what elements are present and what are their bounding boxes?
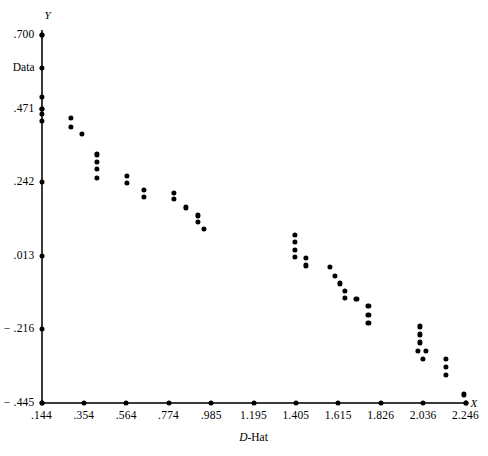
data-point: [292, 239, 297, 244]
data-point: [68, 116, 73, 121]
x-tick-label: 1.615: [325, 410, 352, 422]
y-tick-mark: [39, 327, 44, 332]
data-point: [292, 247, 297, 252]
data-point: [124, 181, 129, 186]
y-tick-label: .013: [14, 250, 35, 262]
x-tick-mark: [293, 400, 298, 405]
data-point: [343, 288, 348, 293]
x-tick-label: .354: [73, 410, 94, 422]
data-point: [333, 273, 338, 278]
data-point: [124, 173, 129, 178]
x-tick-mark: [209, 400, 214, 405]
data-point: [39, 118, 44, 123]
y-tick-label: .471: [14, 103, 35, 115]
y-tick-mark: [39, 180, 44, 185]
x-tick-label: 1.826: [367, 410, 394, 422]
series-label-data: Data: [13, 62, 35, 74]
x-tick-label: .564: [116, 410, 137, 422]
data-point: [183, 205, 188, 210]
data-point: [171, 191, 176, 196]
x-tick-mark: [81, 400, 86, 405]
data-point: [39, 32, 44, 37]
data-point: [95, 159, 100, 164]
data-point: [303, 263, 308, 268]
x-axis-symbol-label: X: [471, 398, 478, 409]
data-point: [366, 304, 371, 309]
x-tick-label: .774: [158, 410, 179, 422]
scatter-plot: Y X Data D-Hat .700.471.242.013− .216− .…: [0, 0, 488, 456]
y-tick-label: .700: [14, 29, 35, 41]
data-point: [338, 281, 343, 286]
data-point: [39, 94, 44, 99]
data-point: [141, 194, 146, 199]
data-point: [39, 111, 44, 116]
x-tick-label: 2.036: [410, 410, 437, 422]
data-point: [463, 400, 468, 405]
data-point: [171, 196, 176, 201]
data-point: [343, 296, 348, 301]
data-point: [415, 348, 420, 353]
data-point: [366, 312, 371, 317]
y-tick-mark: [39, 253, 44, 258]
x-axis-title: D-Hat: [239, 431, 268, 443]
x-tick-mark: [166, 400, 171, 405]
data-point: [420, 356, 425, 361]
x-tick-mark: [421, 400, 426, 405]
x-tick-label: 2.246: [452, 410, 479, 422]
data-point: [201, 226, 206, 231]
x-tick-label: 1.405: [282, 410, 309, 422]
data-point: [195, 213, 200, 218]
y-tick-label: − .445: [4, 397, 35, 409]
x-tick-mark: [124, 400, 129, 405]
data-point: [39, 65, 44, 70]
data-point: [303, 255, 308, 260]
data-point: [141, 187, 146, 192]
data-point: [328, 264, 333, 269]
data-point: [95, 166, 100, 171]
data-point: [354, 296, 359, 301]
data-point: [423, 348, 428, 353]
y-tick-label: − .216: [4, 323, 35, 335]
x-tick-mark: [378, 400, 383, 405]
x-tick-mark: [336, 400, 341, 405]
data-point: [417, 324, 422, 329]
data-point: [444, 357, 449, 362]
data-point: [417, 332, 422, 337]
y-axis-symbol-label: Y: [45, 10, 51, 21]
data-point: [95, 152, 100, 157]
x-tick-label: .985: [201, 410, 222, 422]
x-tick-mark: [251, 400, 256, 405]
data-point: [366, 320, 371, 325]
data-point: [195, 220, 200, 225]
data-point: [444, 365, 449, 370]
data-point: [95, 175, 100, 180]
x-tick-label: 1.195: [240, 410, 267, 422]
y-tick-label: .242: [14, 176, 35, 188]
x-axis-title-suffix: -Hat: [247, 431, 267, 443]
y-axis-line: [41, 30, 43, 405]
x-tick-mark: [39, 400, 44, 405]
data-point: [292, 255, 297, 260]
data-point: [462, 392, 467, 397]
data-point: [417, 340, 422, 345]
x-tick-label: .144: [31, 410, 52, 422]
data-point: [68, 124, 73, 129]
data-point: [79, 131, 84, 136]
data-point: [292, 232, 297, 237]
data-point: [444, 372, 449, 377]
